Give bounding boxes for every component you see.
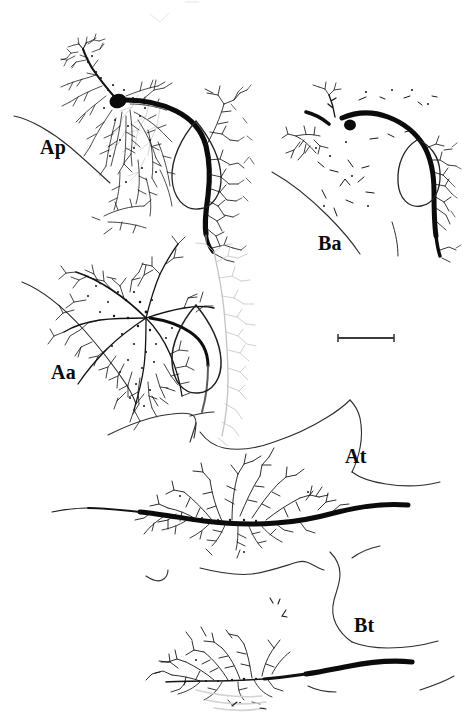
- soma-ba: [344, 120, 356, 131]
- panel-label-at: At: [345, 446, 367, 466]
- panel-label-bt: Bt: [354, 615, 374, 635]
- panel-label-ap: Ap: [40, 137, 66, 157]
- panel-label-aa: Aa: [51, 362, 76, 382]
- panel-label-ba: Ba: [318, 233, 342, 253]
- neuron-morphology-figure: Ap Ba Aa At Bt: [0, 0, 471, 723]
